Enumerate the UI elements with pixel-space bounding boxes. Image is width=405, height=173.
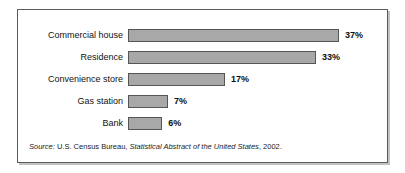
source-prefix: Source: [29, 142, 55, 151]
category-label-bank: Bank [18, 117, 123, 130]
bar-group-convenience-store: 17% [128, 73, 249, 86]
chart-row: Residence 33% [18, 51, 387, 64]
bar-commercial-house [128, 29, 339, 42]
bar-residence [128, 51, 316, 64]
chart-row: Bank 6% [18, 117, 387, 130]
chart-frame: Commercial house 37% Residence 33% Conve… [17, 9, 388, 163]
value-label-convenience-store: 17% [231, 73, 249, 86]
value-label-residence: 33% [322, 51, 340, 64]
category-label-convenience-store: Convenience store [18, 73, 123, 86]
category-label-commercial-house: Commercial house [18, 29, 123, 42]
category-label-gas-station: Gas station [18, 95, 123, 108]
bar-group-bank: 6% [128, 117, 181, 130]
chart-row: Gas station 7% [18, 95, 387, 108]
bar-group-gas-station: 7% [128, 95, 187, 108]
bar-bank [128, 117, 162, 130]
chart-row: Commercial house 37% [18, 29, 387, 42]
bar-group-commercial-house: 37% [128, 29, 363, 42]
value-label-gas-station: 7% [174, 95, 187, 108]
source-publication: Statistical Abstract of the United State… [130, 142, 259, 151]
bar-convenience-store [128, 73, 225, 86]
bar-group-residence: 33% [128, 51, 340, 64]
value-label-bank: 6% [168, 117, 181, 130]
source-note: Source: U.S. Census Bureau, Statistical … [29, 142, 282, 152]
value-label-commercial-house: 37% [345, 29, 363, 42]
bar-gas-station [128, 95, 168, 108]
bar-chart-plot-area: Commercial house 37% Residence 33% Conve… [18, 10, 387, 162]
source-publisher: U.S. Census Bureau, [57, 142, 127, 151]
source-suffix: , 2002. [259, 142, 282, 151]
category-label-residence: Residence [18, 51, 123, 64]
chart-row: Convenience store 17% [18, 73, 387, 86]
